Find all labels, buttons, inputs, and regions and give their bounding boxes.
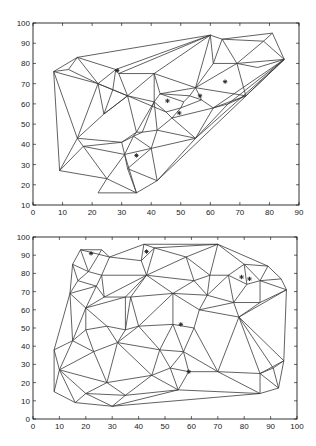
y-tick-label: 30 bbox=[21, 360, 30, 369]
x-tick-label: 80 bbox=[240, 422, 249, 431]
y-tick-label: 70 bbox=[21, 80, 30, 89]
x-tick-label: 20 bbox=[81, 422, 90, 431]
y-tick-label: 50 bbox=[21, 324, 30, 333]
x-tick-label: 60 bbox=[187, 422, 196, 431]
x-tick-label: 40 bbox=[147, 208, 156, 217]
x-tick-label: 70 bbox=[235, 208, 244, 217]
chart-top: 0102030405060708090102030405060708090100 bbox=[0, 0, 316, 220]
y-tick-label: 90 bbox=[21, 39, 30, 48]
x-tick-label: 50 bbox=[161, 422, 170, 431]
x-tick-label: 50 bbox=[176, 208, 185, 217]
x-tick-label: 70 bbox=[213, 422, 222, 431]
x-tick-label: 20 bbox=[88, 208, 97, 217]
y-tick-label: 30 bbox=[21, 161, 30, 170]
y-tick-label: 10 bbox=[21, 201, 30, 210]
x-tick-label: 100 bbox=[290, 422, 304, 431]
x-tick-label: 40 bbox=[134, 422, 143, 431]
chart-bottom: 0102030405060708090100010203040506070809… bbox=[0, 220, 316, 446]
y-tick-label: 80 bbox=[21, 59, 30, 68]
y-tick-label: 40 bbox=[21, 140, 30, 149]
y-tick-label: 0 bbox=[26, 415, 31, 424]
x-tick-label: 80 bbox=[265, 208, 274, 217]
y-tick-label: 20 bbox=[21, 181, 30, 190]
y-tick-label: 60 bbox=[21, 306, 30, 315]
triangulation-plot-1: 0102030405060708090102030405060708090100 bbox=[0, 0, 316, 220]
x-tick-label: 90 bbox=[266, 422, 275, 431]
y-tick-label: 100 bbox=[17, 19, 31, 28]
triangulation-plot-2: 0102030405060708090100010203040506070809… bbox=[0, 220, 316, 446]
x-tick-label: 90 bbox=[295, 208, 304, 217]
x-tick-label: 0 bbox=[31, 422, 36, 431]
axes-box bbox=[33, 23, 299, 205]
y-tick-label: 50 bbox=[21, 120, 30, 129]
y-tick-label: 20 bbox=[21, 379, 30, 388]
x-tick-label: 0 bbox=[31, 208, 36, 217]
x-tick-label: 60 bbox=[206, 208, 215, 217]
y-tick-label: 80 bbox=[21, 269, 30, 278]
x-tick-label: 10 bbox=[58, 208, 67, 217]
y-tick-label: 40 bbox=[21, 342, 30, 351]
x-tick-label: 30 bbox=[108, 422, 117, 431]
y-tick-label: 100 bbox=[17, 233, 31, 242]
x-tick-label: 30 bbox=[117, 208, 126, 217]
y-tick-label: 70 bbox=[21, 288, 30, 297]
x-tick-label: 10 bbox=[55, 422, 64, 431]
y-tick-label: 60 bbox=[21, 100, 30, 109]
y-tick-label: 10 bbox=[21, 397, 30, 406]
y-tick-label: 90 bbox=[21, 251, 30, 260]
